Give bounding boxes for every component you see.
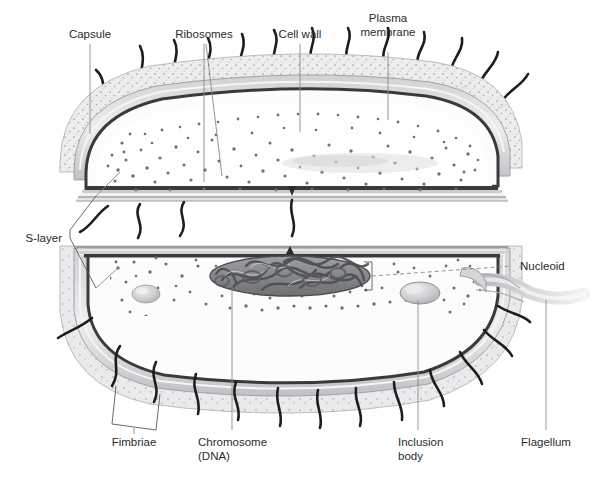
label-nucleoid: Nucleoid <box>520 260 565 272</box>
upper-cell-half <box>60 54 522 201</box>
label-cell-wall: Cell wall <box>279 28 322 40</box>
label-flagellum: Flagellum <box>521 436 571 448</box>
label-plasma-membrane-line1: Plasma <box>369 12 408 24</box>
label-inclusion-body-line2: body <box>398 450 423 462</box>
inclusion-body <box>400 282 440 304</box>
label-plasma-membrane-line2: membrane <box>361 26 416 38</box>
label-chromosome-line1: Chromosome <box>198 436 267 448</box>
bacterial-cell-diagram: Capsule Ribosomes Cell wall Plasma membr… <box>0 0 596 478</box>
nucleoid <box>210 256 370 296</box>
cytoplasm-granule <box>132 285 160 303</box>
diagram-canvas: Capsule Ribosomes Cell wall Plasma membr… <box>0 0 596 478</box>
label-ribosomes: Ribosomes <box>175 28 233 40</box>
label-capsule: Capsule <box>69 28 111 40</box>
label-chromosome-line2: (DNA) <box>198 450 230 462</box>
label-inclusion-body-line1: Inclusion <box>398 436 443 448</box>
label-fimbriae: Fimbriae <box>112 436 157 448</box>
lower-cell-half <box>60 246 522 413</box>
label-s-layer: S-layer <box>26 232 63 244</box>
